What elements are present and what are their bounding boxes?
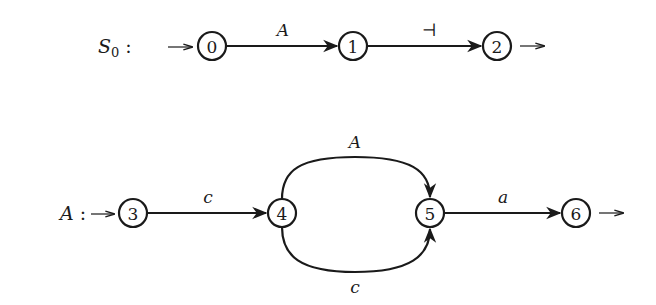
svg-text:6: 6 xyxy=(571,204,582,224)
transition-0-1: A xyxy=(226,20,337,46)
svg-text:5: 5 xyxy=(425,204,436,224)
transition-5-6: a xyxy=(444,187,560,213)
state-2: 2 xyxy=(483,32,511,60)
state-4: 4 xyxy=(268,199,296,227)
transition-4-5-lower: c xyxy=(282,227,430,297)
svg-text:1: 1 xyxy=(348,37,359,57)
machine-s0-name: S0: xyxy=(98,35,132,60)
transition-label: A xyxy=(275,20,289,40)
state-0: 0 xyxy=(198,32,226,60)
transition-1-2: ⊣ xyxy=(367,20,481,46)
transition-label: a xyxy=(498,187,508,207)
svg-text:4: 4 xyxy=(277,204,288,224)
machine-s0: S0: A ⊣ 0 1 2 xyxy=(98,20,544,60)
transition-label: c xyxy=(350,277,360,297)
transition-3-4: c xyxy=(147,187,266,213)
transition-label: c xyxy=(203,187,213,207)
state-5: 5 xyxy=(416,199,444,227)
machine-a: A: c A c a 3 4 5 xyxy=(58,132,623,297)
svg-text:3: 3 xyxy=(128,204,139,224)
state-3: 3 xyxy=(119,199,147,227)
state-1: 1 xyxy=(339,32,367,60)
machine-a-name: A: xyxy=(58,202,86,224)
svg-text:0: 0 xyxy=(207,37,218,57)
automaton-diagram: S0: A ⊣ 0 1 2 A: c xyxy=(0,0,656,305)
transition-label: A xyxy=(347,132,361,152)
state-6: 6 xyxy=(562,199,590,227)
transition-label: ⊣ xyxy=(422,20,437,40)
transition-4-5-upper: A xyxy=(282,132,430,199)
svg-text:2: 2 xyxy=(492,37,503,57)
